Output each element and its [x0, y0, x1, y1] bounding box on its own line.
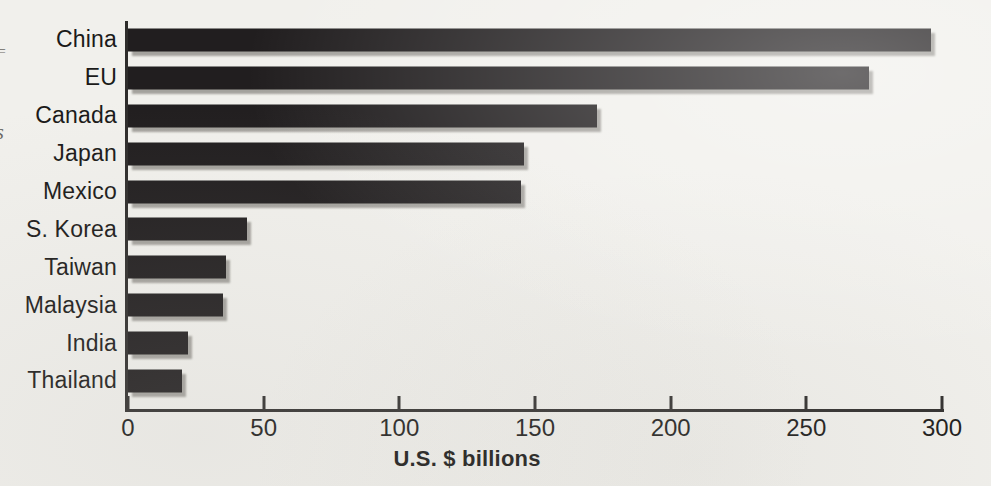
bar-row: Malaysia [0, 286, 991, 324]
bar-mexico [128, 180, 521, 203]
bar-malaysia [128, 294, 223, 317]
x-axis-tick [534, 396, 537, 409]
trade-bar-chart: ChinaEUCanadaJapanMexicoS. KoreaTaiwanMa… [0, 0, 991, 486]
category-label: Japan [0, 142, 128, 165]
bar-row: China [0, 21, 991, 59]
x-axis-line [125, 409, 944, 412]
bar-track [128, 135, 991, 173]
x-axis-tick-label: 50 [250, 416, 277, 440]
category-label: Malaysia [0, 294, 128, 317]
bar-track [128, 324, 991, 362]
x-axis-tick [805, 396, 808, 409]
x-axis-tick [941, 396, 944, 409]
bar-row: India [0, 324, 991, 362]
page-text-fragment: s [0, 121, 4, 144]
bar-canada [128, 104, 597, 127]
y-axis-line [125, 21, 128, 412]
category-label: India [0, 332, 128, 355]
bar-track [128, 286, 991, 324]
x-axis-tick [127, 396, 130, 409]
bar-row: Taiwan [0, 248, 991, 286]
bar-india [128, 332, 188, 355]
bar-track [128, 21, 991, 59]
bar-row: Canada [0, 97, 991, 135]
bar-eu [128, 66, 869, 89]
category-label: S. Korea [0, 218, 128, 241]
category-label: Canada [0, 104, 128, 127]
x-axis-tick-label: 100 [379, 416, 419, 440]
bar-thailand [128, 369, 182, 392]
bar-track [128, 362, 991, 400]
bar-row: Mexico [0, 173, 991, 211]
bar-china [128, 28, 931, 51]
bar-row: EU [0, 59, 991, 97]
category-label: China [0, 28, 128, 51]
x-axis-tick-label: 200 [651, 416, 691, 440]
x-axis-tick-label: 150 [515, 416, 555, 440]
category-label: Mexico [0, 180, 128, 203]
x-axis-tick [262, 396, 265, 409]
x-axis-tick-label: 0 [121, 416, 134, 440]
x-axis-title: U.S. $ billions [393, 446, 540, 472]
bar-japan [128, 142, 524, 165]
bar-row: S. Korea [0, 210, 991, 248]
bar-rows: ChinaEUCanadaJapanMexicoS. KoreaTaiwanMa… [0, 21, 991, 400]
bar-taiwan [128, 256, 226, 279]
scanned-book-page: ChinaEUCanadaJapanMexicoS. KoreaTaiwanMa… [0, 0, 991, 486]
x-axis-tick [669, 396, 672, 409]
bar-track [128, 210, 991, 248]
bar-row: Japan [0, 135, 991, 173]
category-label: Taiwan [0, 256, 128, 279]
category-label: Thailand [0, 369, 128, 392]
bar-track [128, 97, 991, 135]
x-axis-tick-label: 300 [922, 416, 962, 440]
bar-track [128, 173, 991, 211]
x-axis-tick-label: 250 [786, 416, 826, 440]
bar-row: Thailand [0, 362, 991, 400]
x-axis-tick [398, 396, 401, 409]
bar-s-korea [128, 218, 247, 241]
page-text-fragment: = [0, 44, 6, 60]
category-label: EU [0, 66, 128, 89]
bar-track [128, 248, 991, 286]
bar-track [128, 59, 991, 97]
